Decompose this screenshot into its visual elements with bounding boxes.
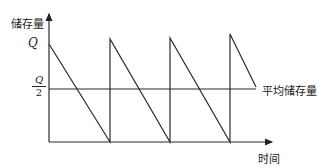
half-q-tick-label: Q 2 (32, 75, 46, 98)
q-tick-label: Q (28, 36, 38, 50)
x-axis-label: 时间 (258, 150, 280, 166)
average-label: 平均储存量 (262, 82, 317, 98)
inventory-sawtooth (49, 34, 256, 142)
inventory-diagram: 储存量 Q Q 2 平均储存量 时间 (0, 0, 326, 168)
y-axis-label: 储存量 (11, 15, 44, 31)
